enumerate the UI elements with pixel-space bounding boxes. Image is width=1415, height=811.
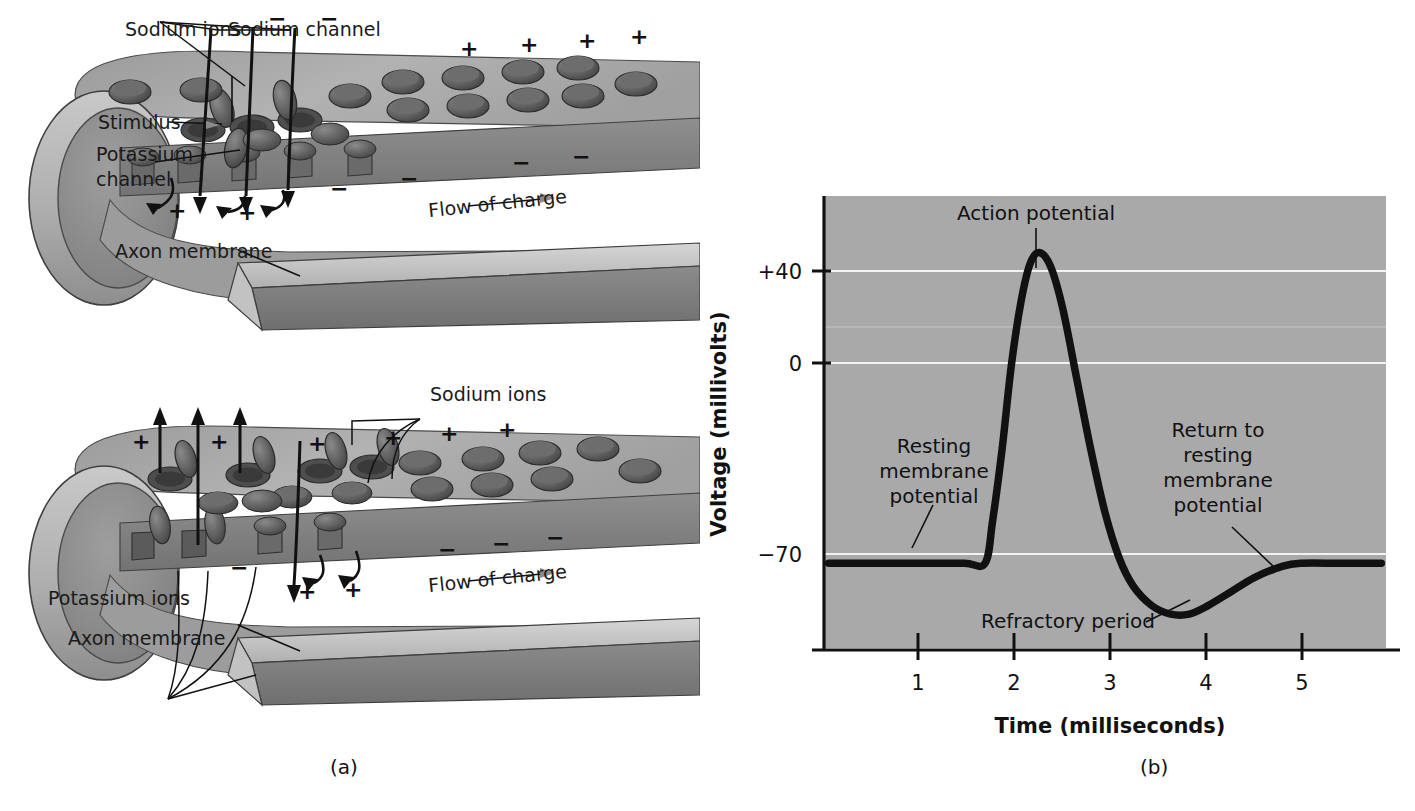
annotation-return-line3: membrane	[1163, 468, 1272, 492]
xtick-label-5: 5	[1295, 671, 1308, 695]
annotation-return-line1: Return to	[1172, 418, 1265, 442]
annotation-refractory-period: Refractory period	[981, 609, 1155, 633]
annotation-resting-line2: membrane	[879, 459, 988, 483]
y-axis-title: Voltage (millivolts)	[707, 311, 731, 536]
action-potential-chart: +40 0 −70 1 2 3 4 5 Time (milliseconds) …	[0, 0, 1415, 811]
xtick-label-3: 3	[1103, 671, 1116, 695]
ytick-label-0: 0	[789, 352, 802, 376]
annotation-return-line4: potential	[1174, 493, 1263, 517]
xtick-label-2: 2	[1007, 671, 1020, 695]
plot-area-background	[824, 196, 1386, 648]
xtick-label-4: 4	[1199, 671, 1212, 695]
annotation-action-potential: Action potential	[957, 201, 1115, 225]
x-axis-title: Time (milliseconds)	[995, 714, 1226, 738]
annotation-resting-line3: potential	[890, 484, 979, 508]
annotation-return-line2: resting	[1183, 443, 1252, 467]
ytick-label-minus70: −70	[758, 543, 802, 567]
xtick-label-1: 1	[911, 671, 924, 695]
ytick-label-40: +40	[758, 260, 802, 284]
annotation-resting-line1: Resting	[897, 434, 972, 458]
